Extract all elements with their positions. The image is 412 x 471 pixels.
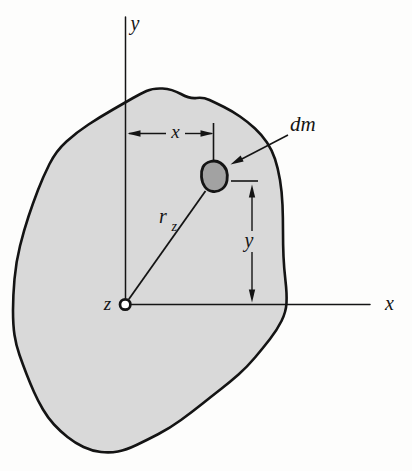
mass-element bbox=[201, 161, 227, 192]
dm-label: dm bbox=[290, 112, 316, 136]
x-axis-label: x bbox=[384, 292, 394, 314]
x-dim-label: x bbox=[170, 121, 180, 142]
origin-circle bbox=[120, 299, 130, 309]
origin-label: z bbox=[103, 293, 112, 314]
rz-label-subscript: z bbox=[171, 219, 178, 234]
y-dim-label: y bbox=[243, 229, 254, 252]
diagram-page: y x z dm x y r z bbox=[0, 0, 412, 471]
y-axis-label: y bbox=[129, 12, 140, 35]
rz-label-base: r bbox=[159, 205, 167, 227]
inertia-diagram: y x z dm x y r z bbox=[0, 0, 412, 471]
